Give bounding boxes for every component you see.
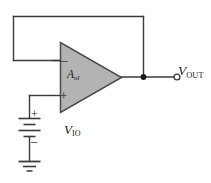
source-subscript: IO <box>72 129 81 138</box>
output-voltage-label: VOUT <box>178 64 204 78</box>
non-inverting-input-sign: + <box>60 89 67 102</box>
schematic-svg <box>0 0 211 183</box>
output-subscript: OUT <box>186 71 203 80</box>
battery-symbol <box>19 119 41 137</box>
gain-subscript: ol <box>74 74 80 82</box>
output-symbol: V <box>178 63 186 78</box>
output-junction-dot <box>141 74 147 80</box>
battery-plus-sign: + <box>31 108 38 120</box>
gain-symbol: A <box>67 68 74 80</box>
ground-symbol <box>19 162 41 172</box>
inverting-input-sign: – <box>61 53 68 66</box>
source-symbol: V <box>64 122 72 137</box>
battery-minus-sign: – <box>31 135 37 147</box>
opamp-gain-label: Aol <box>67 69 80 81</box>
circuit-diagram-canvas: Aol VOUT VIO – + + – <box>0 0 211 183</box>
source-voltage-label: VIO <box>64 123 81 136</box>
